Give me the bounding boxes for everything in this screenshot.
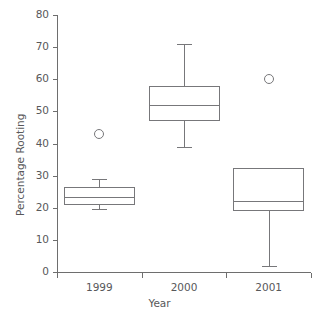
x-tick-1 [142,273,143,278]
y-tick-label-30: 30 [23,170,49,181]
y-tick-10 [53,240,57,241]
whisker-upper-1999 [99,179,100,187]
x-tick-3 [311,273,312,278]
y-tick-label-40: 40 [23,138,49,149]
box-2001 [233,168,304,211]
outlier-2001-0 [264,74,274,84]
y-tick-20 [53,208,57,209]
y-tick-60 [53,79,57,80]
boxplot-chart: 01020304050607080199920002001YearPercent… [0,0,319,321]
whisker-lower-2001 [269,211,270,266]
whisker-upper-cap-2000 [177,44,192,45]
y-axis-title: Percentage Rooting [14,114,26,216]
y-tick-label-80: 80 [23,9,49,20]
whisker-lower-cap-2000 [177,147,192,148]
box-1999 [64,187,135,205]
y-tick-label-0: 0 [23,266,49,277]
x-axis-line [57,272,311,273]
whisker-upper-cap-1999 [92,179,107,180]
y-tick-label-10: 10 [23,234,49,245]
median-1999 [64,197,135,198]
whisker-lower-cap-1999 [92,209,107,210]
x-tick-label-2000: 2000 [154,282,214,293]
median-2000 [149,105,220,106]
y-tick-70 [53,47,57,48]
x-tick-2 [226,273,227,278]
median-2001 [233,201,304,202]
x-tick-label-2001: 2001 [239,282,299,293]
y-tick-label-50: 50 [23,105,49,116]
y-tick-label-70: 70 [23,41,49,52]
whisker-upper-2000 [184,44,185,86]
whisker-lower-cap-2001 [262,266,277,267]
y-tick-50 [53,111,57,112]
y-tick-label-60: 60 [23,73,49,84]
y-axis-line [57,15,58,273]
whisker-lower-2000 [184,121,185,147]
y-tick-40 [53,144,57,145]
y-tick-label-20: 20 [23,202,49,213]
x-tick-0 [57,273,58,278]
box-2000 [149,86,220,121]
outlier-1999-0 [94,129,104,139]
x-tick-label-1999: 1999 [69,282,129,293]
x-axis-title: Year [0,297,319,309]
y-tick-80 [53,15,57,16]
y-tick-30 [53,176,57,177]
